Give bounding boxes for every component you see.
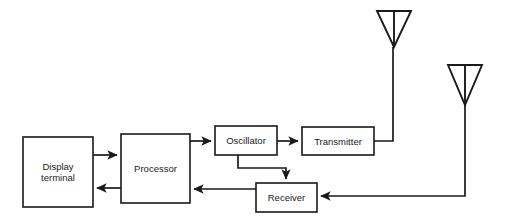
block-display-terminal — [23, 137, 93, 207]
transmit-antenna-icon — [377, 11, 411, 47]
block-transmitter — [302, 127, 374, 155]
block-diagram-canvas: Display terminal Processor Oscillator Tr… — [0, 0, 510, 223]
connector-oscillator-to-receiver — [238, 155, 286, 179]
receive-antenna-icon — [448, 65, 482, 105]
connector-transmitter-to-antenna — [374, 47, 393, 141]
block-diagram-graphics — [0, 0, 510, 223]
block-oscillator — [215, 126, 277, 155]
block-receiver — [256, 183, 317, 212]
block-processor — [121, 134, 190, 203]
